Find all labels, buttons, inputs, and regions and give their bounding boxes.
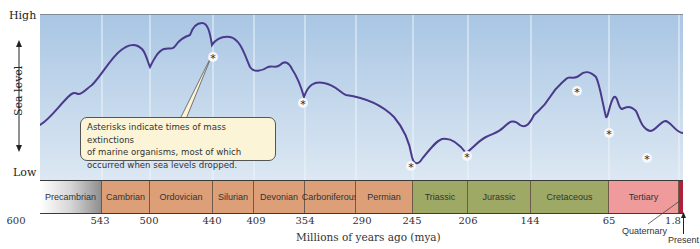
x-tick-500: 500 (139, 215, 158, 226)
y-label-low: Low (13, 166, 36, 179)
asterisk-icon: * (644, 153, 650, 166)
period-carboniferous: Carboniferous (305, 181, 356, 213)
period-permian: Permian (356, 181, 413, 213)
y-label-high: High (9, 9, 36, 22)
x-tick-600: 600 (6, 215, 25, 226)
y-axis-title: Sea level (12, 66, 25, 116)
x-tick-543: 543 (90, 215, 109, 226)
x-tick-144: 144 (520, 215, 539, 226)
period-silurian: Silurian (213, 181, 254, 213)
x-tick-290: 290 (352, 215, 371, 226)
asterisk-icon: * (574, 86, 580, 99)
period-precambrian: Precambrian (40, 181, 102, 213)
present-arrow-icon (680, 212, 688, 234)
period-devonian: Devonian (254, 181, 305, 213)
quaternary-label: Quaternary (622, 226, 667, 236)
x-tick-354: 354 (295, 215, 314, 226)
asterisk-icon: * (300, 98, 306, 111)
geologic-timeline: Precambrian Cambrian Ordovician Silurian… (40, 180, 683, 214)
asterisk-icon: * (606, 128, 612, 141)
period-triassic: Triassic (413, 181, 468, 213)
callout-line-2: of marine organisms, most of which (87, 146, 269, 159)
x-axis-title: Millions of years ago (mya) (296, 231, 441, 243)
asterisk-icon: * (408, 161, 414, 174)
callout-line-1: Asterisks indicate times of mass extinct… (87, 121, 269, 146)
period-cretaceous: Cretaceous (531, 181, 609, 213)
x-tick-65: 65 (603, 215, 616, 226)
present-label: Present (668, 235, 699, 245)
callout-line-3: occurred when sea levels dropped. (87, 159, 269, 172)
x-tick-245: 245 (402, 215, 421, 226)
x-tick-409: 409 (246, 215, 265, 226)
callout-pointer (180, 55, 212, 119)
x-tick-206: 206 (458, 215, 477, 226)
period-cambrian: Cambrian (102, 181, 150, 213)
asterisk-icon: * (210, 52, 216, 65)
callout-annotation: Asterisks indicate times of mass extinct… (80, 117, 276, 161)
period-jurassic: Jurassic (468, 181, 531, 213)
x-tick-440: 440 (202, 215, 221, 226)
period-ordovician: Ordovician (150, 181, 213, 213)
asterisk-icon: * (464, 151, 470, 164)
